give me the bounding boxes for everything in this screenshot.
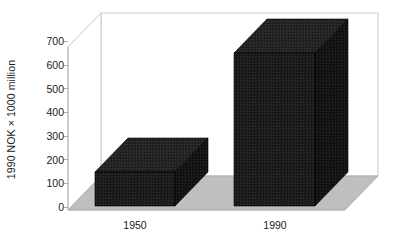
bar-1950-front bbox=[95, 172, 175, 206]
y-tick-label-300: 300 bbox=[38, 131, 64, 141]
y-tick-mark-300 bbox=[64, 136, 68, 137]
y-tick-label-0: 0 bbox=[38, 202, 64, 212]
y-tick-label-600: 600 bbox=[38, 60, 64, 70]
x-axis-label-1990: 1990 bbox=[245, 219, 305, 231]
y-tick-mark-200 bbox=[64, 159, 68, 160]
y-tick-mark-500 bbox=[64, 88, 68, 89]
bar-1990-front bbox=[234, 53, 315, 206]
bar-chart: 1990 NOK × 1000 million bbox=[0, 0, 395, 239]
y-tick-label-700: 700 bbox=[38, 36, 64, 46]
y-tick-label-400: 400 bbox=[38, 107, 64, 117]
y-tick-mark-100 bbox=[64, 183, 68, 184]
y-tick-mark-700 bbox=[64, 41, 68, 42]
bar-1990 bbox=[234, 19, 348, 206]
y-tick-label-500: 500 bbox=[38, 84, 64, 94]
y-axis-ticks: 700 600 500 400 300 200 100 0 bbox=[34, 0, 64, 239]
y-tick-label-200: 200 bbox=[38, 155, 64, 165]
y-tick-mark-600 bbox=[64, 65, 68, 66]
x-axis-label-1950: 1950 bbox=[105, 219, 165, 231]
y-tick-mark-0 bbox=[64, 207, 68, 208]
y-tick-label-100: 100 bbox=[38, 178, 64, 188]
y-tick-mark-400 bbox=[64, 112, 68, 113]
